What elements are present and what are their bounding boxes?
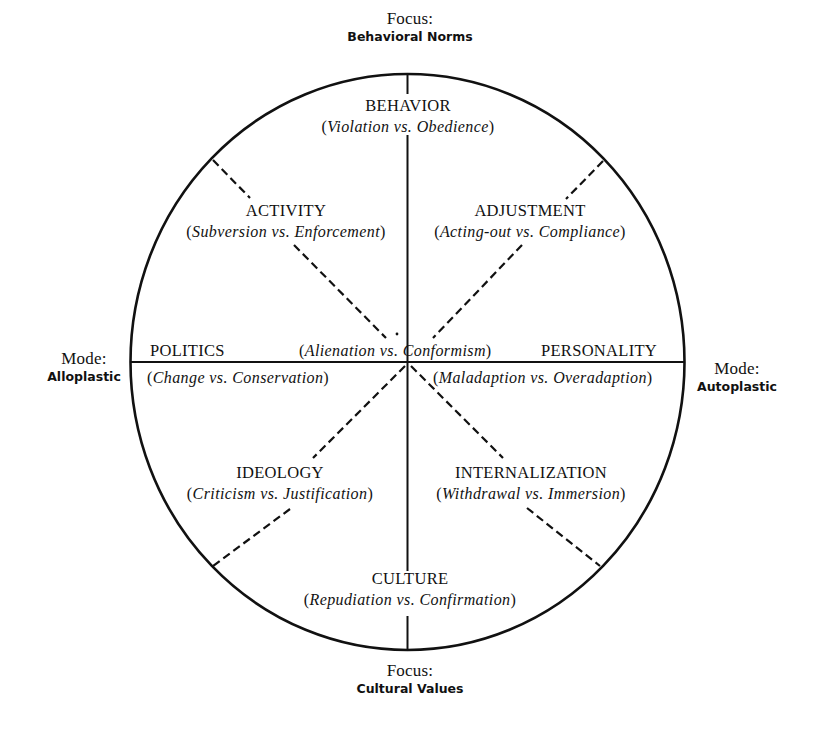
axis-left-title: Mode:: [61, 350, 106, 367]
sector-activity: ACTIVITY (Subversion vs. Enforcement): [186, 203, 385, 240]
axis-left-label: Mode: Alloplastic: [47, 350, 121, 384]
dashed-diagonal-lower-left-outer: [213, 509, 290, 566]
sector-title: ACTIVITY: [246, 203, 326, 220]
sector-politics-title: POLITICS: [150, 343, 225, 360]
dashed-diagonal-lower-right-outer: [527, 508, 600, 566]
axis-top-title: Focus:: [387, 10, 434, 27]
dashed-diagonal-upper-right-inner: [433, 245, 522, 338]
sector-politics-dimension: (Change vs. Conservation): [147, 370, 329, 386]
dashed-diagonal-upper-left-inner: [294, 245, 386, 338]
sector-adjustment: ADJUSTMENT (Acting-out vs. Compliance): [434, 203, 626, 240]
axis-right-value: Autoplastic: [697, 381, 777, 394]
sector-dimension: (Subversion vs. Enforcement): [186, 224, 385, 240]
sector-dimension: (Acting-out vs. Compliance): [434, 224, 626, 240]
sector-internalization: INTERNALIZATION (Withdrawal vs. Immersio…: [436, 465, 626, 502]
dashed-diagonal-upper-right-outer: [566, 161, 603, 199]
sector-title: CULTURE: [372, 571, 449, 588]
center-dot: [396, 333, 399, 336]
axis-right-label: Mode: Autoplastic: [697, 360, 777, 394]
sector-title: INTERNALIZATION: [455, 465, 607, 482]
sector-ideology: IDEOLOGY (Criticism vs. Justification): [187, 465, 373, 502]
axis-bottom-label: Focus: Cultural Values: [357, 662, 464, 696]
axis-top-label: Focus: Behavioral Norms: [347, 10, 472, 44]
sector-personality-dimension: (Maladaption vs. Overadaption): [433, 370, 653, 386]
sector-title: ADJUSTMENT: [474, 203, 585, 220]
axis-left-value: Alloplastic: [47, 371, 121, 384]
dashed-diagonal-upper-left-outer: [213, 160, 250, 198]
axis-top-value: Behavioral Norms: [347, 31, 472, 44]
sector-dimension: (Repudiation vs. Confirmation): [304, 592, 516, 608]
sector-title: BEHAVIOR: [365, 98, 451, 115]
axis-bottom-value: Cultural Values: [357, 683, 464, 696]
sector-culture: CULTURE (Repudiation vs. Confirmation): [302, 571, 518, 608]
axis-right-title: Mode:: [714, 360, 759, 377]
sector-title: IDEOLOGY: [236, 465, 324, 482]
sector-dimension: (Criticism vs. Justification): [187, 486, 373, 502]
axis-bottom-title: Focus:: [387, 662, 434, 679]
center-dimension: (Alienation vs. Conformism): [299, 343, 492, 359]
sector-behavior: BEHAVIOR (Violation vs. Obedience): [320, 98, 497, 135]
sector-dimension: (Withdrawal vs. Immersion): [436, 486, 626, 502]
sector-dimension: (Violation vs. Obedience): [322, 119, 495, 135]
sector-personality-title: PERSONALITY: [541, 343, 657, 360]
